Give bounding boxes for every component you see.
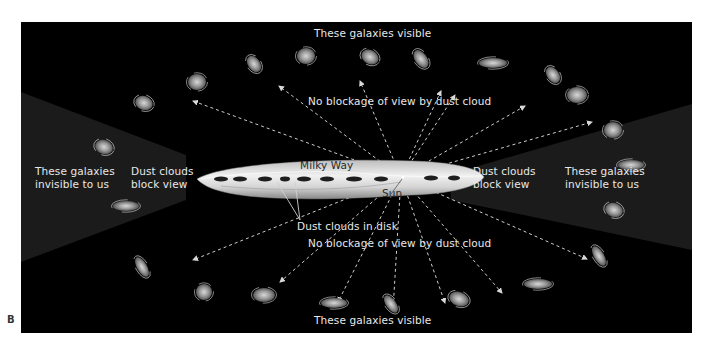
galaxy-icon xyxy=(587,242,610,270)
label-right-dust: Dust clouds block view xyxy=(473,165,536,191)
galaxy-icon xyxy=(320,297,349,309)
galaxy-icon xyxy=(195,283,214,301)
sightline-arrow xyxy=(280,186,390,282)
sightline-arrow xyxy=(393,191,400,310)
galaxy-icon xyxy=(566,86,589,104)
galaxy-icon xyxy=(296,47,317,65)
label-dust-in-disk: Dust clouds in disk xyxy=(297,220,398,233)
galaxy-icon xyxy=(130,253,153,281)
label-left-dust: Dust clouds block view xyxy=(131,165,194,191)
label-top-visible: These galaxies visible xyxy=(314,27,431,40)
diagram-panel: These galaxies visible No blockage of vi… xyxy=(21,22,692,333)
galaxy-icon xyxy=(252,287,277,303)
sightline-arrow xyxy=(360,81,396,164)
label-right-invisible: These galaxies invisible to us xyxy=(565,165,645,191)
panel-letter: B xyxy=(7,314,15,325)
galaxy-icon xyxy=(409,45,434,72)
galaxy-icon xyxy=(603,121,624,139)
label-no-blockage-top: No blockage of view by dust cloud xyxy=(308,95,491,108)
sun-marker xyxy=(402,176,405,179)
galaxy-icon xyxy=(357,45,383,70)
label-no-blockage-bottom: No blockage of view by dust cloud xyxy=(308,237,491,250)
label-sun: Sun xyxy=(382,187,402,200)
galaxy-icon xyxy=(541,62,565,87)
galaxy-icon xyxy=(445,287,472,310)
galaxy-icon xyxy=(187,73,208,91)
galaxy-icon xyxy=(131,92,156,115)
label-bottom-visible: These galaxies visible xyxy=(314,314,431,327)
galaxy-icon xyxy=(242,51,266,76)
label-milky-way: Milky Way xyxy=(300,159,353,172)
galaxy-icon xyxy=(523,278,554,290)
galaxy-icon xyxy=(478,57,509,69)
label-left-invisible: These galaxies invisible to us xyxy=(35,165,115,191)
